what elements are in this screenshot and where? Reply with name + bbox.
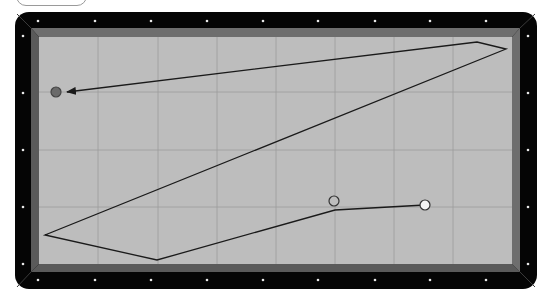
diamond-marker-right: [527, 263, 530, 266]
diamond-marker-left: [22, 263, 25, 266]
diamond-marker-top: [374, 20, 377, 23]
diamond-marker-top: [206, 20, 209, 23]
diamond-marker-left: [22, 206, 25, 209]
diamond-marker-top: [429, 20, 432, 23]
diamond-marker-bottom: [37, 279, 40, 282]
diamond-marker-bottom: [429, 279, 432, 282]
diamond-marker-right: [527, 35, 530, 38]
diamond-marker-bottom: [206, 279, 209, 282]
cue-ball[interactable]: [420, 200, 430, 210]
cushion-top: [31, 28, 520, 37]
diamond-marker-bottom: [485, 279, 488, 282]
diamond-marker-right: [527, 206, 530, 209]
cushion-right: [512, 28, 520, 272]
diamond-marker-right: [527, 149, 530, 152]
diamond-marker-top: [37, 20, 40, 23]
diamond-marker-top: [94, 20, 97, 23]
diamond-marker-left: [22, 35, 25, 38]
diamond-marker-top: [317, 20, 320, 23]
cushion-bottom: [31, 264, 520, 272]
diamond-marker-bottom: [150, 279, 153, 282]
billiards-table: [0, 0, 551, 304]
object-ball-1[interactable]: [329, 196, 339, 206]
diamond-marker-bottom: [374, 279, 377, 282]
diamond-marker-left: [22, 92, 25, 95]
diamond-marker-top: [262, 20, 265, 23]
diamond-marker-top: [485, 20, 488, 23]
diamond-marker-bottom: [262, 279, 265, 282]
diamond-marker-right: [527, 92, 530, 95]
diamond-marker-bottom: [317, 279, 320, 282]
diamond-marker-bottom: [94, 279, 97, 282]
object-ball-2[interactable]: [51, 87, 61, 97]
cushion-left: [31, 28, 39, 272]
table-felt: [39, 37, 512, 264]
diamond-marker-top: [150, 20, 153, 23]
diamond-marker-left: [22, 149, 25, 152]
